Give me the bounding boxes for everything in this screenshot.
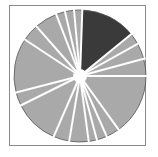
- pie-center-hole: [73, 69, 87, 83]
- pie-chart: [0, 0, 158, 157]
